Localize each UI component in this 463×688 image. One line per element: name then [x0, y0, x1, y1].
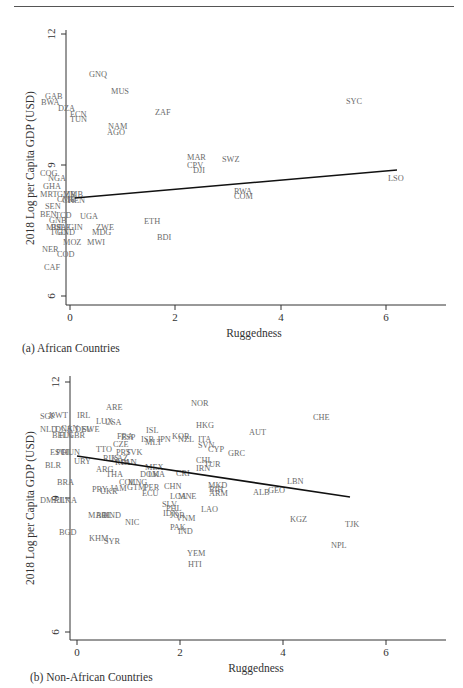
- chart-a-xtick-4: 4: [278, 311, 284, 323]
- point-label: MWI: [87, 238, 105, 247]
- point-label: MOZ: [63, 238, 81, 247]
- point-label: BLR: [45, 461, 62, 470]
- point-label: LKA: [148, 470, 165, 479]
- point-label: JAM: [110, 484, 127, 493]
- point-label: TUN: [70, 115, 87, 124]
- point-label: YEM: [187, 549, 206, 558]
- point-label: USA: [105, 418, 122, 427]
- point-label: GNQ: [89, 70, 107, 79]
- point-label: IRL: [77, 411, 90, 420]
- point-label: CAF: [44, 263, 61, 272]
- point-label: BDI: [157, 233, 172, 242]
- point-label: CRI: [176, 469, 190, 478]
- point-label: SYC: [346, 97, 363, 106]
- point-label: MNE: [178, 492, 196, 501]
- point-label: LSO: [388, 174, 404, 183]
- point-label: SVK: [126, 448, 143, 457]
- chart-a-point-labels: GNQMUSGABBWADZAECNTUNNAMAGOZAFSYCMARCPVS…: [40, 70, 404, 272]
- chart-b-xtick-4: 4: [280, 646, 286, 658]
- point-label: HND: [103, 511, 121, 520]
- point-label: KGZ: [290, 515, 307, 524]
- point-label: ISL: [146, 426, 158, 435]
- point-label: NOR: [191, 399, 209, 408]
- chart-a-xtick-6: 6: [383, 311, 389, 323]
- point-label: SLV: [162, 500, 177, 509]
- point-label: ARM: [209, 489, 229, 498]
- point-label: BRA: [57, 478, 74, 487]
- point-label: BGD: [59, 528, 77, 537]
- chart-a-x-title: Ruggedness: [226, 327, 282, 340]
- caption-a: (a) African Countries: [22, 342, 120, 354]
- point-label: TJK: [345, 520, 359, 529]
- point-label: COM: [234, 192, 254, 201]
- point-label: IRN: [196, 464, 210, 473]
- point-label: KWT: [49, 411, 68, 420]
- point-label: ECU: [142, 489, 159, 498]
- chart-b-point-labels: NORCHEHKGAUTARESGPKWTIRLLUXUSACANNLDDNKD…: [40, 399, 359, 569]
- point-label: CHE: [313, 413, 330, 422]
- chart-b-ytick-6: 6: [49, 629, 61, 635]
- chart-a-xtick-0: 0: [67, 311, 73, 323]
- chart-a-ytick-12: 12: [45, 29, 57, 40]
- chart-a-xtick-2: 2: [172, 311, 178, 323]
- point-label: MLT: [145, 438, 162, 447]
- point-label: LKA: [60, 496, 77, 505]
- point-label: MRT: [40, 190, 57, 199]
- caption-b: (b) Non-African Countries: [30, 671, 153, 683]
- point-label: COD: [57, 250, 75, 259]
- chart-a-y-title: 2018 Log per Capita GDP (USD): [24, 91, 37, 245]
- point-label: ETH: [144, 217, 160, 226]
- point-label: ARE: [106, 403, 123, 412]
- point-label: LAO: [201, 505, 218, 514]
- point-label: TTO: [96, 445, 112, 454]
- point-label: AUT: [249, 428, 266, 437]
- point-label: UGA: [80, 212, 98, 221]
- point-label: MDG: [92, 228, 111, 237]
- point-label: ZAF: [155, 108, 171, 117]
- point-label: GRC: [228, 449, 246, 458]
- point-label: IND: [178, 527, 193, 536]
- point-label: AGO: [107, 128, 125, 137]
- chart-b-xtick-2: 2: [177, 646, 183, 658]
- point-label: VNM: [176, 514, 196, 523]
- point-label: FIN: [59, 431, 72, 440]
- chart-b-y-title: 2018 Log per Capita GDP (USD): [24, 431, 37, 585]
- point-label: SWZ: [222, 155, 240, 164]
- chart-b: 12 9 6 0 2 4 6 Ruggedness 2018 Log per C…: [24, 376, 446, 675]
- chart-b-xtick-6: 6: [383, 646, 389, 658]
- point-label: NZL: [178, 435, 194, 444]
- chart-a-ytick-6: 6: [45, 293, 57, 299]
- chart-a-ytick-9: 9: [45, 162, 57, 168]
- point-label: CYP: [208, 445, 225, 454]
- point-label: BWA: [41, 98, 59, 107]
- point-label: LBN: [287, 477, 304, 486]
- chart-b-x-title: Ruggedness: [228, 662, 284, 675]
- chart-b-ytick-12: 12: [49, 377, 61, 388]
- point-label: SYR: [104, 537, 121, 546]
- point-label: DJI: [193, 166, 205, 175]
- point-label: NIC: [125, 518, 140, 527]
- point-label: HTI: [188, 560, 202, 569]
- point-label: HKG: [196, 421, 214, 430]
- point-label: MUS: [111, 87, 129, 96]
- point-label: NPL: [331, 541, 347, 550]
- point-label: CHN: [164, 482, 182, 491]
- chart-b-xtick-0: 0: [74, 646, 80, 658]
- point-label: GND: [57, 228, 75, 237]
- chart-a: 12 9 6 0 2 4 6 Ruggedness 2018 Log per C…: [24, 29, 446, 341]
